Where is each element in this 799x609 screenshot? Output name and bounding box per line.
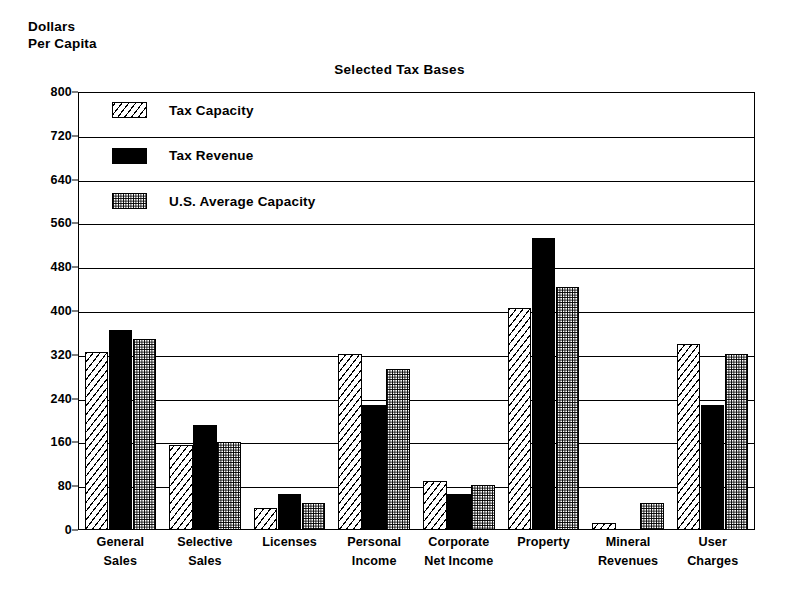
y-axis-tick-label: 480 <box>30 260 72 274</box>
legend-swatch <box>112 102 147 118</box>
y-axis-tick-label: 240 <box>30 392 72 406</box>
legend-item: Tax Capacity <box>112 100 254 120</box>
y-axis-tick-label: 160 <box>30 435 72 449</box>
y-axis-tick-label: 800 <box>30 85 72 99</box>
y-axis-tick-label: 80 <box>30 479 72 493</box>
gridline <box>79 268 754 269</box>
gridline <box>79 400 754 401</box>
x-axis: General SalesSelective SalesLicensesPers… <box>78 533 755 593</box>
x-axis-tick-label: Property <box>517 533 570 552</box>
gridline <box>79 356 754 357</box>
x-axis-tick-label: Corporate Net Income <box>424 533 493 571</box>
legend-swatch <box>112 148 147 164</box>
x-axis-tick-label: Selective Sales <box>177 533 233 571</box>
legend-item: Tax Revenue <box>112 146 254 166</box>
legend-label: U.S. Average Capacity <box>169 194 316 209</box>
legend-label: Tax Revenue <box>169 148 254 163</box>
x-axis-tick-label: Personal Income <box>347 533 401 571</box>
legend-item: U.S. Average Capacity <box>112 191 316 211</box>
gridline <box>79 312 754 313</box>
gridline <box>79 224 754 225</box>
x-axis-tick-label: General Sales <box>97 533 145 571</box>
x-axis-tick-label: User Charges <box>687 533 738 571</box>
chart-title: Selected Tax Bases <box>0 62 799 77</box>
x-axis-tick-label: Licenses <box>262 533 317 552</box>
gridline <box>79 487 754 488</box>
y-axis: 080160240320400480560640720800 <box>24 92 72 530</box>
y-axis-tick-label: 640 <box>30 173 72 187</box>
y-axis-units-label: Dollars Per Capita <box>28 18 97 52</box>
gridline <box>79 137 754 138</box>
y-axis-tick-label: 720 <box>30 129 72 143</box>
legend-label: Tax Capacity <box>169 103 254 118</box>
y-axis-tick-label: 320 <box>30 348 72 362</box>
legend-swatch <box>112 193 147 209</box>
y-axis-tick-label: 400 <box>30 304 72 318</box>
y-axis-tick-label: 0 <box>30 523 72 537</box>
x-axis-tick-label: Mineral Revenues <box>598 533 658 571</box>
y-axis-tick-label: 560 <box>30 216 72 230</box>
gridline <box>79 181 754 182</box>
gridline <box>79 443 754 444</box>
